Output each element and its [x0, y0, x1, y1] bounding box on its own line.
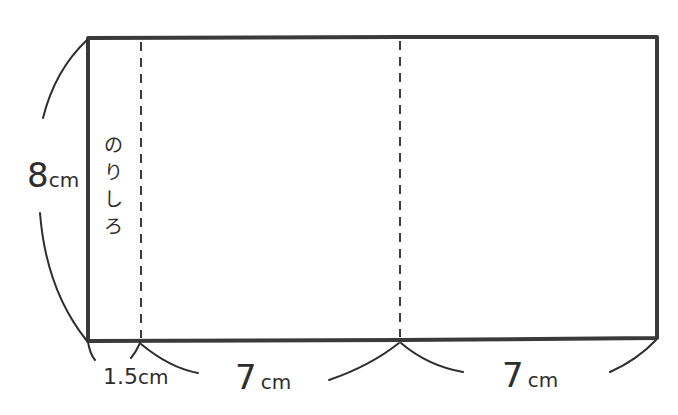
glue-flap-char-1: の — [104, 136, 123, 155]
glue-flap-width-unit: cm — [138, 365, 168, 389]
panel-2-width-unit: cm — [528, 368, 558, 392]
panel-1-width-value: 7 — [235, 357, 257, 397]
panel-2-width-label: 7cm — [502, 358, 558, 392]
glue-flap-width-value: 1.5 — [103, 364, 138, 389]
glue-flap-width-brace — [88, 342, 140, 360]
outer-rectangle — [88, 37, 657, 341]
glue-flap-char-4: ろ — [104, 217, 123, 236]
height-unit: cm — [49, 168, 79, 192]
panel-1-width-unit: cm — [261, 370, 291, 394]
panel-1-width-label: 7cm — [235, 360, 291, 394]
glue-flap-char-3: し — [104, 190, 123, 209]
height-label: 8cm — [27, 158, 79, 192]
height-value: 8 — [27, 155, 49, 195]
glue-flap-width-label: 1.5cm — [103, 366, 168, 388]
glue-flap-label: の り し ろ — [101, 136, 125, 236]
panel-2-width-value: 7 — [502, 355, 524, 395]
glue-flap-char-2: り — [104, 163, 123, 182]
